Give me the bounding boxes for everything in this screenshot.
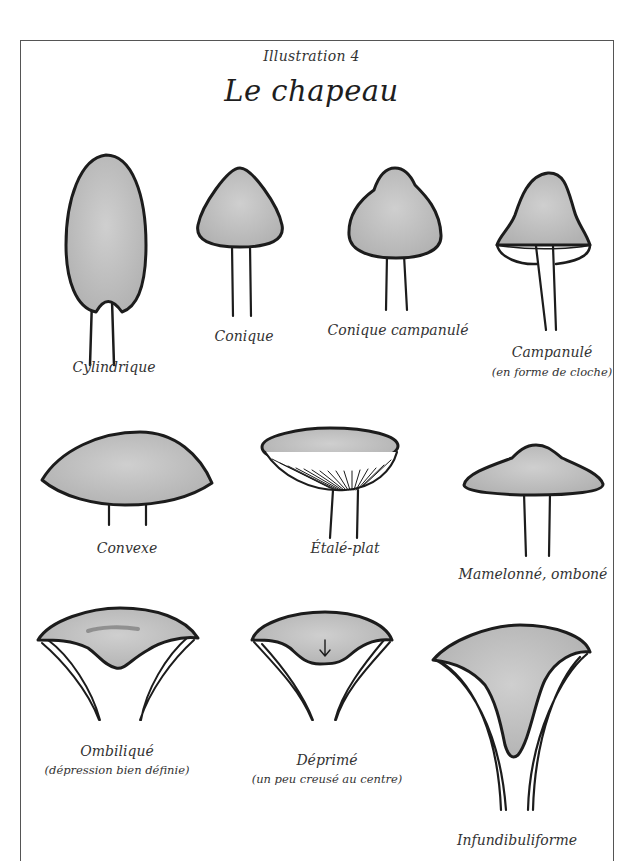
label-conique: Conique <box>215 328 274 344</box>
deprime-illustration <box>252 612 392 720</box>
conique-illustration <box>198 168 283 316</box>
infundibuliforme-illustration <box>433 625 590 810</box>
label-deprime: Déprimé <box>296 752 357 768</box>
label-etale-plat: Étalé-plat <box>310 540 379 556</box>
ombilique-illustration <box>38 608 198 720</box>
campanule-illustration <box>497 173 590 330</box>
label-conique-campanule: Conique campanulé <box>328 322 469 338</box>
etale-plat-illustration <box>262 428 398 538</box>
mamelonne-illustration <box>464 445 603 556</box>
convexe-illustration <box>42 432 212 525</box>
label-ombilique: Ombiliqué <box>80 743 153 759</box>
cylindrique-illustration <box>66 155 146 365</box>
note-ombilique: (dépression bien définie) <box>45 763 190 777</box>
label-mamelonne: Mamelonné, omboné <box>459 566 608 582</box>
label-infundibuliforme: Infundibuliforme <box>457 832 577 848</box>
conique-campanule-illustration <box>349 168 441 310</box>
label-convexe: Convexe <box>97 540 158 556</box>
label-campanule: Campanulé <box>512 344 592 360</box>
label-cylindrique: Cylindrique <box>73 359 156 375</box>
note-campanule: (en forme de cloche) <box>492 365 612 379</box>
note-deprime: (un peu creusé au centre) <box>252 772 403 786</box>
